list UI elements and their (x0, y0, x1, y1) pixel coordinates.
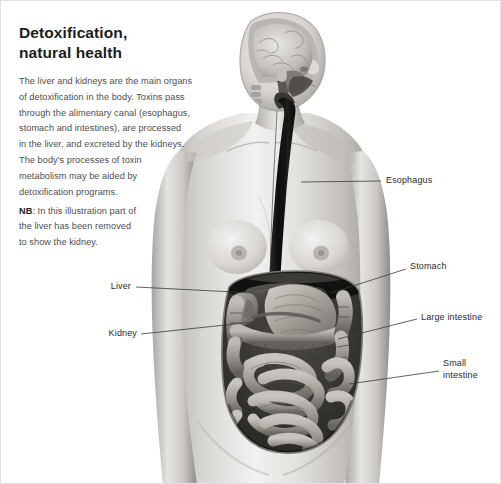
eye (300, 66, 308, 71)
ear (277, 68, 287, 82)
article-note: NB: In this illustration part of the liv… (19, 204, 209, 251)
callout-text: Stomach (410, 261, 447, 271)
callout-text: Kidney (109, 328, 137, 338)
callout-text: Liver (111, 281, 131, 291)
callout-label-kidney: Kidney (79, 328, 137, 340)
note-label: NB (19, 206, 32, 216)
head-sagittal-section (240, 13, 325, 111)
callout-label-small-intestine: Small intestine (443, 358, 478, 381)
illustration-page: Detoxification, natural health The liver… (0, 0, 501, 484)
note-text: : In this illustration part of the liver… (19, 206, 136, 248)
callout-text: Esophagus (386, 175, 432, 185)
page-title: Detoxification, natural health (19, 23, 209, 64)
callout-text: Large intestine (421, 312, 482, 322)
left-nipple (236, 250, 242, 256)
callout-text: Small intestine (443, 358, 478, 380)
callout-label-liver: Liver (79, 281, 131, 293)
callout-label-stomach: Stomach (410, 261, 447, 273)
article-body: The liver and kidneys are the main organ… (19, 74, 209, 201)
callout-label-esophagus: Esophagus (386, 175, 432, 187)
right-nipple (318, 250, 324, 256)
abdominal-cavity (220, 271, 363, 453)
article-text-column: Detoxification, natural health The liver… (19, 23, 209, 251)
callout-label-large-intestine: Large intestine (421, 312, 482, 324)
